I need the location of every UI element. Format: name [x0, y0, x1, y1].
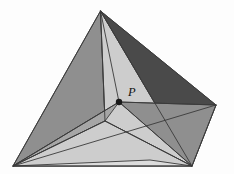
interior-point-marker	[116, 99, 122, 105]
interior-point-label: P	[127, 85, 136, 99]
tetrahedron-diagram: P	[0, 0, 234, 174]
figure-container: P	[0, 0, 234, 174]
